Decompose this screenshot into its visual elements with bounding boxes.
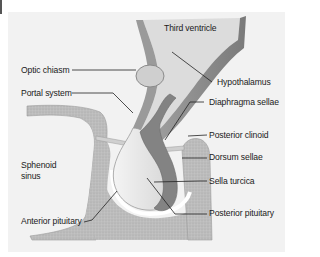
label-anterior-pituitary: Anterior pituitary (21, 216, 82, 226)
label-third-ventricle: Third ventricle (164, 23, 216, 33)
label-sphenoid-sinus-line2: sinus (21, 171, 41, 181)
label-posterior-pituitary: Posterior pituitary (209, 208, 274, 218)
label-sella-turcica: Sella turcica (209, 176, 255, 186)
label-hypothalamus: Hypothalamus (217, 77, 271, 87)
label-sphenoid-sinus-line1: Sphenoid (21, 160, 57, 170)
label-dorsum-sellae: Dorsum sellae (209, 152, 263, 162)
label-posterior-clinoid: Posterior clinoid (209, 130, 268, 140)
label-diaphragma-sellae: Diaphragma sellae (209, 97, 279, 107)
label-optic-chiasm: Optic chiasm (21, 65, 69, 75)
label-portal-system: Portal system (21, 88, 72, 98)
optic-chiasm-shape (136, 65, 164, 87)
